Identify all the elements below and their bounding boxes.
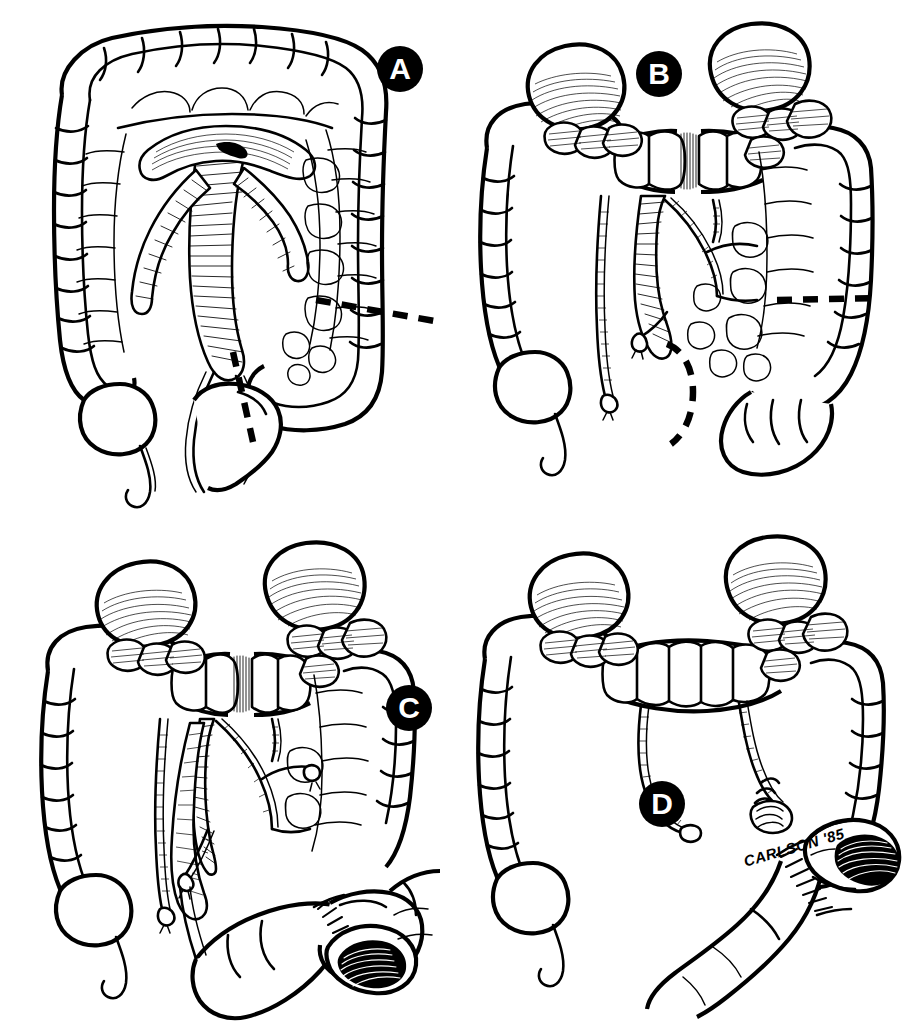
panel-d-illustration [451, 511, 902, 1022]
panel-d [451, 511, 902, 1022]
panel-c [0, 511, 451, 1022]
panel-label-b: B [636, 51, 682, 97]
panel-label-c: C [386, 685, 432, 731]
figure-root: A B C D CARLSON '85 [0, 0, 902, 1022]
panel-label-a: A [377, 46, 423, 92]
panel-label-d: D [639, 781, 685, 827]
resection-line-curve-b [667, 344, 693, 444]
panel-c-illustration [0, 511, 451, 1022]
